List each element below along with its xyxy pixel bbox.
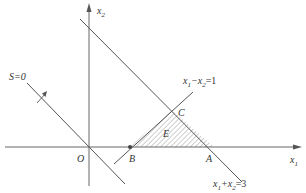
point-a-label: A [205, 153, 213, 164]
x1-axis-arrow-icon [293, 145, 302, 150]
x2-axis-arrow-icon [87, 3, 92, 12]
x1-minus-x2-label: x1−x2=1 [182, 75, 216, 89]
point-b-marker [128, 145, 132, 149]
region-e-label: E [162, 128, 169, 139]
origin-label: O [77, 153, 84, 164]
gradient-arrow-icon [37, 91, 47, 103]
x2-axis-label: x2 [96, 5, 105, 19]
x1-axis-label: x1 [289, 154, 298, 168]
lp-diagram: x2 x1 O S=0 x1−x2=1 x1+x2=3 C E B A [0, 0, 306, 193]
point-c-label: C [178, 107, 185, 118]
s-eq-0-label: S=0 [9, 71, 26, 82]
point-b-label: B [129, 153, 135, 164]
line-x1-plus-x2-eq-3 [80, 19, 242, 182]
x1-plus-x2-label: x1+x2=3 [212, 178, 246, 192]
